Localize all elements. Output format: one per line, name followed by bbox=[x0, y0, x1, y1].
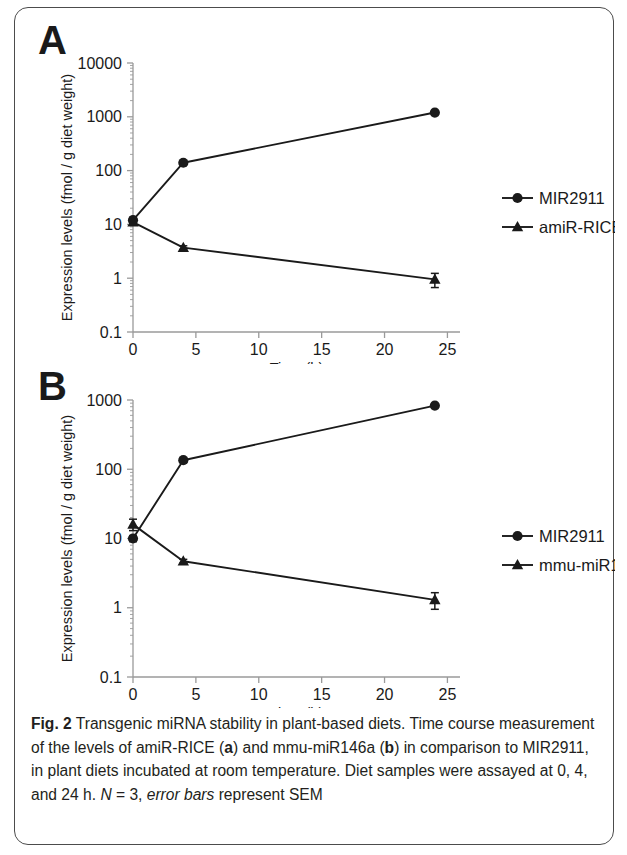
legend-label: amiR-RICE bbox=[539, 218, 615, 236]
y-tick-label: 1 bbox=[113, 270, 122, 287]
y-axis-label: Expression levels (fmol / g diet weight) bbox=[59, 415, 75, 662]
data-point-circle bbox=[128, 533, 138, 543]
legend-entry-mir2911: MIR2911 bbox=[502, 527, 605, 545]
series-line-mmu-mir146a bbox=[133, 524, 435, 600]
x-tick-label: 0 bbox=[129, 686, 138, 703]
x-tick-label: 0 bbox=[129, 341, 138, 358]
y-tick-label: 10 bbox=[104, 530, 122, 547]
legend-label: MIR2911 bbox=[539, 189, 605, 207]
legend-entry-mmu-mir146a: mmu-miR146a bbox=[502, 556, 615, 574]
y-tick-label: 100 bbox=[95, 461, 122, 478]
legend-entry-amir-rice: amiR-RICE bbox=[502, 218, 615, 236]
caption-text-4: = 3, bbox=[112, 786, 147, 803]
panel-b-plot: 10001001010.10510152025Time (h)Expressio… bbox=[15, 360, 615, 708]
panel-a: A 1000010001001010.10510152025Time (h)Ex… bbox=[15, 12, 615, 364]
x-tick-label: 25 bbox=[439, 686, 457, 703]
y-tick-label: 0.1 bbox=[100, 669, 122, 686]
y-tick-label: 10 bbox=[104, 216, 122, 233]
x-tick-label: 20 bbox=[376, 686, 394, 703]
caption-bold-a: a bbox=[224, 739, 233, 756]
panel-b: B 10001001010.10510152025Time (h)Express… bbox=[15, 360, 615, 708]
data-point-circle bbox=[178, 158, 188, 168]
data-point-circle bbox=[178, 455, 188, 465]
series-line-mir2911 bbox=[133, 113, 435, 221]
caption-text-2: ) and mmu-miR146a ( bbox=[233, 739, 385, 756]
x-tick-label: 15 bbox=[313, 341, 331, 358]
data-point-circle bbox=[430, 401, 440, 411]
y-tick-label: 1000 bbox=[86, 392, 122, 409]
legend-entry-mir2911: MIR2911 bbox=[502, 189, 605, 207]
figure-caption: Fig. 2 Transgenic miRNA stability in pla… bbox=[31, 712, 601, 806]
caption-italic-errorbars: error bars bbox=[147, 786, 215, 803]
x-tick-label: 10 bbox=[250, 686, 268, 703]
data-point-triangle bbox=[178, 555, 189, 565]
y-tick-label: 1 bbox=[113, 599, 122, 616]
x-tick-label: 25 bbox=[439, 341, 457, 358]
caption-bold-b: b bbox=[385, 739, 395, 756]
x-tick-label: 5 bbox=[191, 341, 200, 358]
legend-label: MIR2911 bbox=[539, 527, 605, 545]
y-tick-label: 100 bbox=[95, 162, 122, 179]
series-line-mir2911 bbox=[133, 406, 435, 539]
x-axis-label: Time (h) bbox=[270, 705, 323, 708]
legend-label: mmu-miR146a bbox=[539, 556, 615, 574]
x-tick-label: 5 bbox=[191, 686, 200, 703]
x-tick-label: 15 bbox=[313, 686, 331, 703]
caption-italic-n: N bbox=[100, 786, 111, 803]
caption-figure-number: Fig. 2 bbox=[31, 715, 72, 732]
data-point-circle bbox=[430, 107, 440, 117]
caption-text-5: represent SEM bbox=[214, 786, 322, 803]
data-point-triangle bbox=[178, 242, 189, 252]
y-tick-label: 1000 bbox=[86, 108, 122, 125]
y-axis-label: Expression levels (fmol / g diet weight) bbox=[59, 74, 75, 321]
panel-a-plot: 1000010001001010.10510152025Time (h)Expr… bbox=[15, 12, 615, 364]
y-tick-label: 0.1 bbox=[100, 324, 122, 341]
x-tick-label: 10 bbox=[250, 341, 268, 358]
y-tick-label: 10000 bbox=[78, 55, 123, 72]
x-tick-label: 20 bbox=[376, 341, 394, 358]
